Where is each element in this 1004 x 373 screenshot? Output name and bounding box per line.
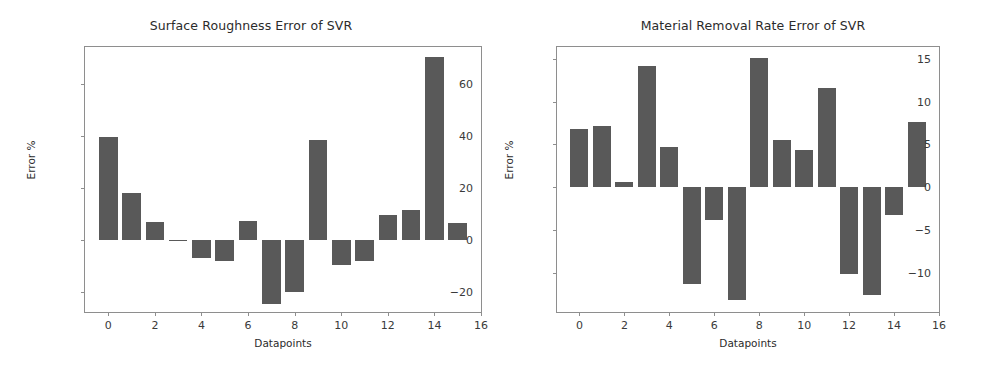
x-tick-label-left-7: 14 — [427, 319, 441, 332]
bar-right-3 — [638, 66, 656, 187]
bar-right-6 — [705, 187, 723, 219]
chart-title-right: Material Removal Rate Error of SVR — [502, 18, 1004, 33]
bar-right-2 — [615, 182, 633, 187]
y-tick-label-right-5: 15 — [917, 52, 931, 65]
y-tick-right-2 — [553, 187, 557, 188]
x-tick-left-2 — [201, 312, 202, 316]
bar-right-15 — [908, 122, 926, 187]
bar-series-right — [557, 47, 939, 312]
x-tick-label-right-4: 8 — [756, 319, 763, 332]
x-tick-right-1 — [624, 312, 625, 316]
bar-right-7 — [728, 187, 746, 300]
y-tick-right-4 — [553, 102, 557, 103]
bar-left-1 — [122, 193, 141, 240]
x-tick-left-8 — [481, 312, 482, 316]
bar-right-13 — [863, 187, 881, 295]
bar-left-9 — [309, 140, 328, 241]
x-tick-right-2 — [669, 312, 670, 316]
y-tick-right-5 — [553, 59, 557, 60]
y-tick-right-1 — [553, 230, 557, 231]
x-tick-right-7 — [894, 312, 895, 316]
x-tick-right-6 — [849, 312, 850, 316]
bar-left-7 — [262, 240, 281, 304]
x-tick-right-5 — [804, 312, 805, 316]
x-tick-label-right-8: 16 — [932, 319, 946, 332]
x-tick-label-left-5: 10 — [334, 319, 348, 332]
bar-left-11 — [355, 240, 374, 261]
plot-area-right: Datapoints −10−50510150246810121416 — [556, 46, 940, 313]
x-tick-label-right-6: 12 — [842, 319, 856, 332]
y-tick-label-left-3: 40 — [459, 129, 473, 142]
y-tick-label-left-2: 20 — [459, 181, 473, 194]
y-tick-left-2 — [81, 188, 85, 189]
x-tick-label-right-2: 4 — [666, 319, 673, 332]
bar-left-13 — [402, 210, 421, 240]
y-tick-label-left-4: 60 — [459, 77, 473, 90]
x-tick-right-4 — [759, 312, 760, 316]
bar-left-5 — [215, 240, 234, 261]
bar-right-9 — [773, 140, 791, 187]
bar-left-14 — [425, 57, 444, 240]
y-tick-label-right-0: −10 — [908, 266, 931, 279]
bar-right-10 — [795, 150, 813, 187]
bar-right-4 — [660, 147, 678, 187]
x-tick-right-3 — [714, 312, 715, 316]
y-axis-label-right: Error % — [503, 141, 515, 180]
y-tick-left-4 — [81, 84, 85, 85]
bar-right-8 — [750, 58, 768, 187]
x-tick-label-left-2: 4 — [198, 319, 205, 332]
y-tick-label-right-1: −5 — [915, 223, 931, 236]
x-tick-label-left-1: 2 — [151, 319, 158, 332]
bar-left-3 — [169, 240, 188, 241]
bar-left-15 — [448, 223, 467, 240]
y-tick-label-right-2: 0 — [924, 181, 931, 194]
y-tick-left-3 — [81, 136, 85, 137]
x-tick-label-left-6: 12 — [381, 319, 395, 332]
bar-left-6 — [239, 221, 258, 241]
y-axis-label-left: Error % — [25, 141, 37, 180]
x-tick-label-left-3: 6 — [245, 319, 252, 332]
x-tick-label-right-0: 0 — [576, 319, 583, 332]
x-axis-label-right: Datapoints — [557, 337, 939, 349]
chart-title-left: Surface Roughness Error of SVR — [0, 18, 502, 33]
bar-left-2 — [146, 222, 165, 240]
x-tick-label-left-8: 16 — [474, 319, 488, 332]
bar-right-11 — [818, 88, 836, 187]
figure-canvas: Surface Roughness Error of SVR Error % D… — [0, 0, 1004, 373]
bar-left-0 — [99, 137, 118, 240]
y-tick-left-1 — [81, 240, 85, 241]
x-axis-label-left: Datapoints — [85, 337, 481, 349]
x-tick-right-8 — [939, 312, 940, 316]
x-tick-label-right-3: 6 — [711, 319, 718, 332]
bar-right-14 — [885, 187, 903, 214]
x-tick-left-1 — [155, 312, 156, 316]
x-tick-label-left-0: 0 — [105, 319, 112, 332]
x-tick-label-right-1: 2 — [621, 319, 628, 332]
bar-series-left — [85, 47, 481, 312]
bar-right-5 — [683, 187, 701, 284]
x-tick-left-0 — [108, 312, 109, 316]
chart-panel-surface-roughness: Surface Roughness Error of SVR Error % D… — [0, 0, 502, 373]
x-tick-left-3 — [248, 312, 249, 316]
y-tick-label-left-1: 0 — [466, 234, 473, 247]
bar-right-12 — [840, 187, 858, 274]
x-tick-label-right-7: 14 — [887, 319, 901, 332]
bar-left-10 — [332, 240, 351, 265]
bar-left-12 — [379, 215, 398, 240]
x-tick-left-5 — [341, 312, 342, 316]
bar-left-8 — [285, 240, 304, 292]
x-tick-label-left-4: 8 — [291, 319, 298, 332]
x-tick-label-right-5: 10 — [797, 319, 811, 332]
x-tick-left-4 — [295, 312, 296, 316]
y-tick-right-0 — [553, 273, 557, 274]
y-tick-label-right-3: 5 — [924, 138, 931, 151]
y-tick-label-right-4: 10 — [917, 95, 931, 108]
chart-panel-material-removal-rate: Material Removal Rate Error of SVR Error… — [502, 0, 1004, 373]
y-tick-left-0 — [81, 292, 85, 293]
y-tick-right-3 — [553, 144, 557, 145]
x-tick-left-7 — [434, 312, 435, 316]
bar-left-4 — [192, 240, 211, 258]
x-tick-left-6 — [388, 312, 389, 316]
x-tick-right-0 — [579, 312, 580, 316]
plot-area-left: Datapoints −2002040600246810121416 — [84, 46, 482, 313]
